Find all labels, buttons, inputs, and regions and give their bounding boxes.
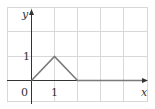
x-axis-label: x [141, 86, 148, 99]
y-axis-arrow-icon [29, 9, 34, 15]
y-axis-label: y [21, 8, 29, 21]
function-graph: y x 0 1 1 [0, 0, 155, 109]
function-line [32, 57, 143, 81]
x-tick-label-1: 1 [51, 86, 58, 99]
y-tick-label-1: 1 [23, 50, 30, 63]
origin-label: 0 [21, 86, 28, 99]
